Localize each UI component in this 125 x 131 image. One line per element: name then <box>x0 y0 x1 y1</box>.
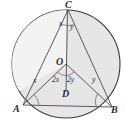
angle-label-y-at-b: y <box>92 76 96 84</box>
vertex-label-d: D <box>62 89 69 99</box>
vertex-label-c: C <box>65 0 72 10</box>
vertex-label-a: A <box>13 104 20 114</box>
vertex-label-b: B <box>111 105 118 115</box>
angle-label-2y-at-o: 2y <box>67 76 74 84</box>
angle-label-2x-at-o: 2x <box>52 76 59 84</box>
angle-label-y-at-c: y <box>70 23 74 31</box>
geometry-figure: C O D A B x y x y 2x 2y <box>0 0 125 131</box>
vertex-label-o: O <box>56 57 63 67</box>
angle-label-x-at-a: x <box>33 77 37 85</box>
angle-label-x-at-c: x <box>59 20 63 28</box>
